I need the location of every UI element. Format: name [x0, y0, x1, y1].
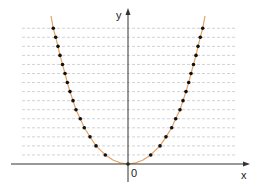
data-point: [181, 99, 185, 103]
y-axis-arrow-icon: [126, 8, 131, 15]
data-point: [201, 26, 205, 30]
data-point: [68, 90, 72, 94]
data-point: [199, 36, 203, 40]
data-point: [196, 45, 200, 49]
parabola-chart: y x 0: [0, 0, 263, 191]
data-point: [149, 153, 153, 157]
data-point: [184, 90, 188, 94]
data-point: [83, 126, 87, 130]
data-point: [63, 72, 67, 76]
data-point: [170, 126, 174, 130]
data-point: [178, 108, 182, 112]
data-point: [54, 36, 58, 40]
data-point: [158, 144, 162, 148]
data-point: [94, 144, 98, 148]
data-point: [88, 135, 92, 139]
data-point: [79, 117, 83, 121]
data-point: [58, 54, 62, 58]
data-point: [164, 135, 168, 139]
data-point: [56, 45, 60, 49]
data-point: [66, 81, 70, 85]
data-point: [194, 54, 198, 58]
data-point: [187, 81, 191, 85]
y-axis-label: y: [116, 9, 122, 21]
x-axis-label: x: [241, 169, 247, 181]
data-point: [71, 99, 75, 103]
data-point: [52, 26, 56, 30]
data-point: [189, 72, 193, 76]
data-point: [104, 153, 108, 157]
data-point: [174, 117, 178, 121]
x-axis-arrow-icon: [243, 162, 250, 167]
data-point: [192, 63, 196, 67]
axes: [11, 8, 250, 182]
data-point: [61, 63, 65, 67]
data-point: [74, 108, 78, 112]
grid-lines: [22, 28, 236, 155]
origin-label: 0: [131, 167, 137, 179]
